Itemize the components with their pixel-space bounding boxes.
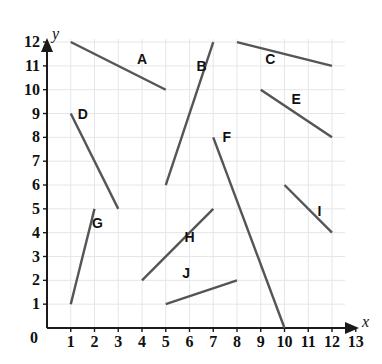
segment-label-h: H [185,230,195,244]
gridlines [47,39,345,328]
line-segment-h [142,209,213,280]
origin-label: 0 [26,330,42,346]
line-segment-j [166,280,237,304]
segment-label-b: B [196,59,206,73]
segment-label-g: G [92,216,103,230]
y-tick-label: 4 [12,225,40,241]
x-tick-label: 13 [345,334,367,350]
x-tick-label: 7 [202,334,224,350]
segment-label-a: A [137,52,147,66]
y-tick-label: 10 [12,82,40,98]
segment-label-c: C [265,52,275,66]
y-tick-label: 12 [12,34,40,50]
segment-label-e: E [291,92,300,106]
x-tick-label: 4 [131,334,153,350]
x-tick-label: 8 [226,334,248,350]
segment-label-j: J [182,266,190,280]
x-tick-label: 10 [274,334,296,350]
segment-label-d: D [78,107,88,121]
x-tick-label: 2 [84,334,106,350]
plot-canvas [0,0,382,364]
y-tick-label: 5 [12,201,40,217]
y-tick-label: 8 [12,129,40,145]
y-tick-label: 3 [12,249,40,265]
coordinate-grid-figure: 12345678910111213123456789101112 ABCDEFG… [0,0,382,364]
y-tick-label: 1 [12,296,40,312]
x-tick-label: 12 [321,334,343,350]
x-tick-label: 5 [155,334,177,350]
x-tick-label: 11 [297,334,319,350]
y-axis-label: y [52,26,59,42]
y-tick-label: 2 [12,272,40,288]
x-axis-label: x [362,314,369,330]
y-tick-label: 11 [12,58,40,74]
y-tick-label: 9 [12,106,40,122]
y-tick-label: 6 [12,177,40,193]
x-tick-label: 3 [107,334,129,350]
segment-label-f: F [223,130,232,144]
segment-label-i: I [318,204,322,218]
x-tick-label: 6 [179,334,201,350]
y-tick-label: 7 [12,153,40,169]
x-tick-label: 1 [60,334,82,350]
x-tick-label: 9 [250,334,272,350]
